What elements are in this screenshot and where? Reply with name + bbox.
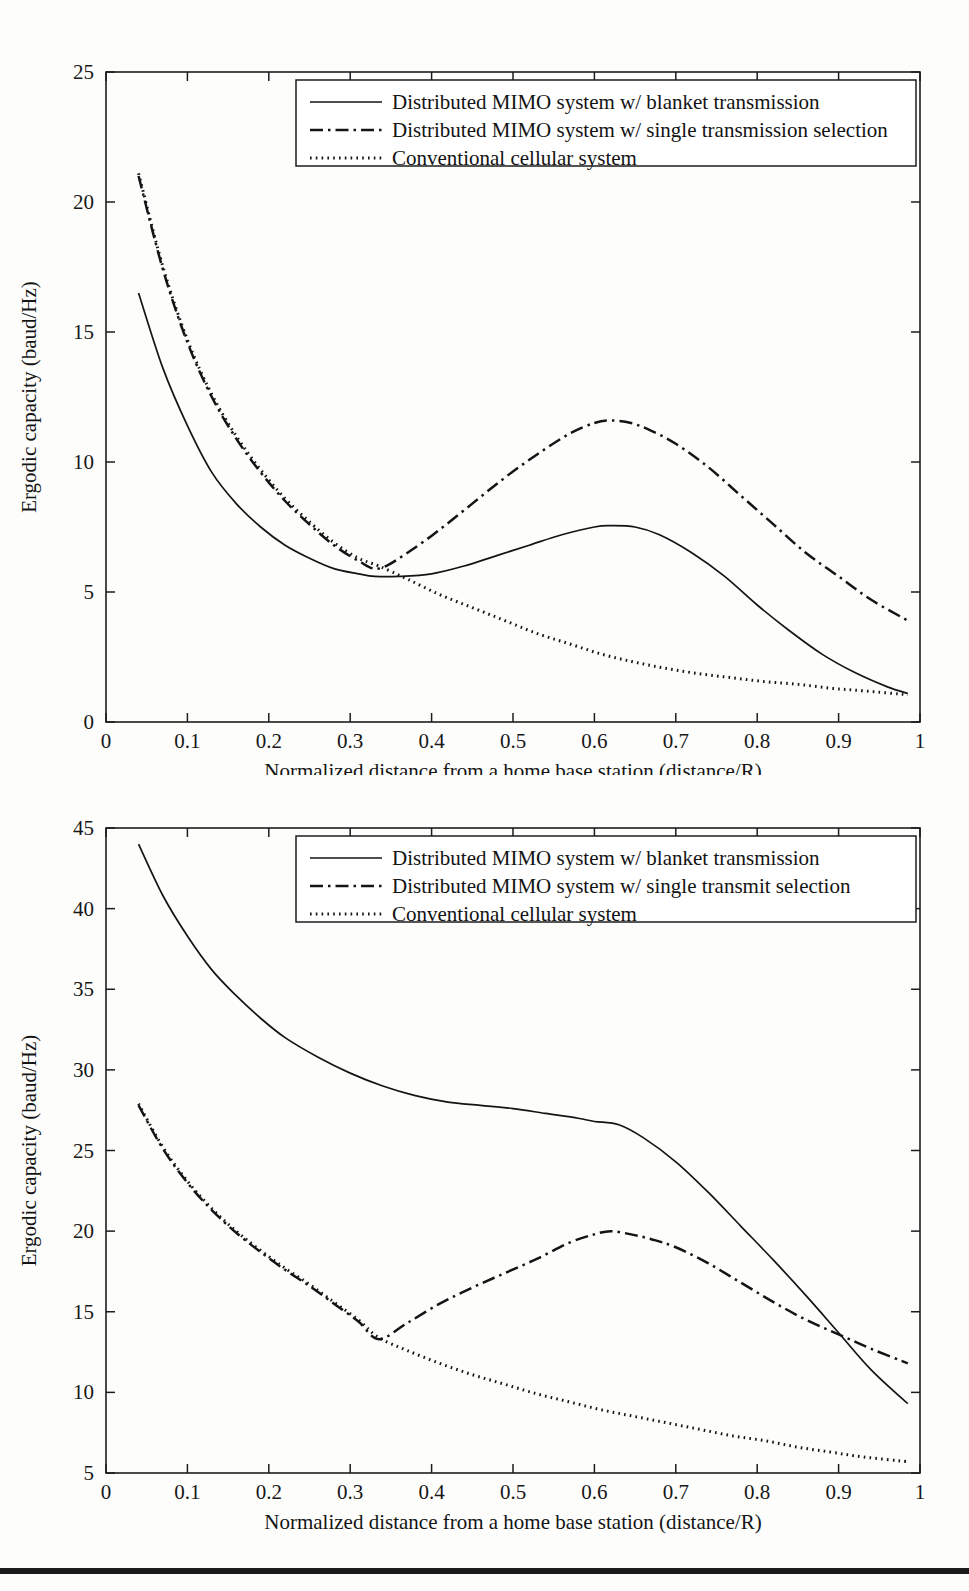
x-tick-label: 0.2 [256,1480,282,1504]
plot-area-top: 00.10.20.30.40.50.60.70.80.910510152025N… [0,0,969,775]
x-tick-label: 0.1 [174,1480,200,1504]
plot-area-bottom: 00.10.20.30.40.50.60.70.80.9151015202530… [0,755,969,1545]
x-tick-label: 0.3 [337,1480,363,1504]
x-tick-label: 0.7 [663,1480,689,1504]
x-tick-label: 0 [101,729,112,753]
bottom-rule [0,1568,969,1574]
y-tick-label: 20 [73,190,94,214]
y-tick-label: 10 [73,450,94,474]
x-tick-label: 0.9 [825,1480,851,1504]
y-tick-label: 35 [73,977,94,1001]
series-line-solid [139,844,908,1404]
y-tick-label: 25 [73,60,94,84]
y-tick-label: 15 [73,320,94,344]
y-tick-label: 25 [73,1139,94,1163]
legend-label: Distributed MIMO system w/ blanket trans… [392,90,820,114]
y-tick-label: 5 [84,1461,95,1485]
y-tick-label: 5 [84,580,95,604]
y-tick-label: 30 [73,1058,94,1082]
x-tick-label: 0.5 [500,729,526,753]
y-axis-title: Ergodic capacity (baud/Hz) [17,1035,41,1267]
legend-label: Distributed MIMO system w/ single transm… [392,118,888,142]
series-line-dashdot [139,176,908,621]
y-axis-title: Ergodic capacity (baud/Hz) [17,281,41,513]
x-tick-label: 0.8 [744,729,770,753]
y-tick-label: 10 [73,1380,94,1404]
x-axis-title: Normalized distance from a home base sta… [264,1510,761,1534]
series-line-dotted [139,173,908,694]
x-tick-label: 0.6 [581,1480,607,1504]
x-tick-label: 1 [915,729,926,753]
series-line-dashdot [139,1105,908,1363]
legend-label: Conventional cellular system [392,146,637,170]
y-tick-label: 20 [73,1219,94,1243]
x-tick-label: 0.7 [663,729,689,753]
x-tick-label: 0.8 [744,1480,770,1504]
chart-bottom: 00.10.20.30.40.50.60.70.80.9151015202530… [0,755,969,1545]
legend-label: Distributed MIMO system w/ blanket trans… [392,846,820,870]
x-tick-label: 0 [101,1480,112,1504]
y-tick-label: 45 [73,816,94,840]
series-line-dotted [139,1104,908,1462]
x-tick-label: 0.4 [418,1480,445,1504]
chart-top: 00.10.20.30.40.50.60.70.80.910510152025N… [0,0,969,775]
x-tick-label: 0.9 [825,729,851,753]
x-tick-label: 0.2 [256,729,282,753]
legend-label: Distributed MIMO system w/ single transm… [392,874,851,898]
y-tick-label: 15 [73,1300,94,1324]
series-line-solid [139,293,908,693]
legend-label: Conventional cellular system [392,902,637,926]
x-tick-label: 0.1 [174,729,200,753]
x-tick-label: 1 [915,1480,926,1504]
x-tick-label: 0.4 [418,729,445,753]
x-tick-label: 0.6 [581,729,607,753]
x-tick-label: 0.3 [337,729,363,753]
figure-page: 00.10.20.30.40.50.60.70.80.910510152025N… [0,0,969,1591]
x-tick-label: 0.5 [500,1480,526,1504]
y-tick-label: 0 [84,710,95,734]
y-tick-label: 40 [73,897,94,921]
